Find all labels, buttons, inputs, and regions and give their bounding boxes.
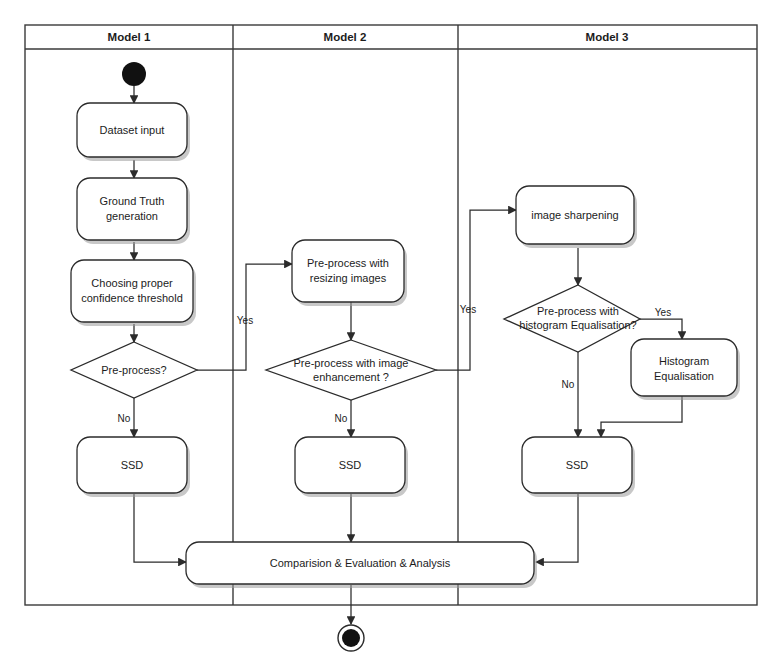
activity-diagram-canvas: Model 1 Model 2 Model 3 [0, 0, 781, 668]
image-sharpening-label: image sharpening [531, 209, 618, 221]
enhancement-decision-label-line2: enhancement ? [313, 371, 389, 383]
ssd3-label: SSD [566, 459, 589, 471]
edge-label-histogram-no: No [562, 379, 575, 390]
node-ground-truth-generation[interactable]: Ground Truth generation [77, 178, 190, 244]
lane-header-model-3: Model 3 [586, 31, 629, 43]
choosing-threshold-box[interactable] [71, 260, 193, 322]
dataset-input-label: Dataset input [100, 124, 165, 136]
histogram-equalisation-label-line2: Equalisation [654, 370, 714, 382]
final-node-icon [342, 629, 360, 647]
ground-truth-box[interactable] [77, 178, 187, 240]
node-ssd-model-1[interactable]: SSD [77, 437, 190, 497]
comparison-label: Comparision & Evaluation & Analysis [270, 557, 451, 569]
edge-label-enhancement-yes: Yes [460, 304, 476, 315]
resizing-label-line1: Pre-process with [307, 257, 389, 269]
resizing-box[interactable] [292, 240, 404, 302]
node-comparison-evaluation-analysis[interactable]: Comparision & Evaluation & Analysis [186, 542, 537, 588]
start-node [122, 62, 146, 86]
ssd2-label: SSD [339, 459, 362, 471]
resizing-label-line2: resizing images [310, 272, 387, 284]
activity-diagram: Model 1 Model 2 Model 3 [0, 0, 781, 668]
enhancement-decision-label-line1: Pre-process with image [294, 357, 409, 369]
histogram-decision-label-line2: histogram Equalisation? [519, 319, 636, 331]
start-node-icon [122, 62, 146, 86]
edge-label-histogram-yes: Yes [655, 307, 671, 318]
histogram-equalisation-label-line1: Histogram [659, 355, 709, 367]
preprocess-decision-label: Pre-process? [101, 364, 166, 376]
ground-truth-label-line2: generation [106, 210, 158, 222]
choosing-threshold-label-line2: confidence threshold [81, 292, 183, 304]
ground-truth-label-line1: Ground Truth [100, 195, 165, 207]
choosing-threshold-label-line1: Choosing proper [91, 277, 173, 289]
ssd1-label: SSD [121, 459, 144, 471]
edge-label-preprocess-no: No [118, 413, 131, 424]
histogram-equalisation-box[interactable] [631, 339, 737, 396]
lane-header-model-1: Model 1 [108, 31, 151, 43]
node-dataset-input[interactable]: Dataset input [77, 103, 190, 161]
node-image-sharpening[interactable]: image sharpening [516, 186, 637, 248]
node-histogram-equalisation[interactable]: Histogram Equalisation [631, 339, 740, 400]
node-preprocess-resizing-images[interactable]: Pre-process with resizing images [292, 240, 407, 306]
edge-label-preprocess-yes: Yes [237, 315, 253, 326]
histogram-decision-label-line1: Pre-process with [537, 305, 619, 317]
node-ssd-model-3[interactable]: SSD [522, 437, 635, 497]
lane-header-model-2: Model 2 [324, 31, 367, 43]
node-ssd-model-2[interactable]: SSD [295, 437, 408, 497]
node-choosing-confidence-threshold[interactable]: Choosing proper confidence threshold [71, 260, 196, 326]
final-node [338, 625, 364, 651]
edge-label-enhancement-no: No [335, 413, 348, 424]
